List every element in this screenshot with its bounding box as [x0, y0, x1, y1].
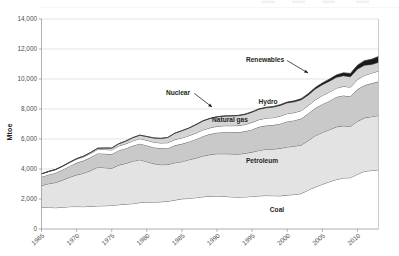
y-tick-label: 8,000 [21, 105, 37, 112]
series-label-renewables: Renewables [246, 56, 284, 63]
y-tick-label: 10,000 [17, 75, 37, 82]
chart-container: 02,0004,0006,0008,00010,00012,00014,000 … [0, 0, 399, 256]
y-tick-label: 0 [33, 225, 37, 232]
legend-remnant-mark [292, 1, 305, 4]
legend-remnant-mark [322, 1, 335, 4]
legend-remnant-mark [356, 1, 369, 4]
legend-remnant-mark [262, 1, 275, 4]
y-tick-label: 6,000 [21, 135, 37, 142]
series-label-nuclear: Nuclear [166, 89, 191, 96]
series-label-hydro: Hydro [258, 98, 277, 106]
y-tick-label: 12,000 [17, 45, 37, 52]
series-label-petroleum: Petroleum [246, 157, 278, 164]
series-label-coal: Coal [270, 206, 284, 213]
stacked-area-chart: 02,0004,0006,0008,00010,00012,00014,000 … [0, 0, 399, 256]
y-tick-label: 14,000 [17, 15, 37, 22]
y-axis-title: Mtoe [5, 124, 14, 141]
y-tick-label: 2,000 [21, 195, 37, 202]
series-label-natural-gas: Natural gas [212, 116, 248, 124]
y-tick-label: 4,000 [21, 165, 37, 172]
